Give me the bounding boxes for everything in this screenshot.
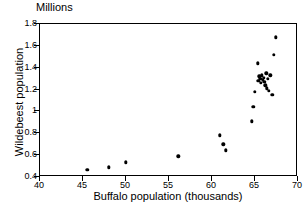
data-point	[269, 74, 272, 77]
y-axis-tick	[34, 89, 39, 90]
x-axis-tick-label: 40	[24, 180, 54, 190]
y-axis-tick	[34, 110, 39, 111]
y-axis-tick	[34, 154, 39, 155]
data-point	[124, 161, 127, 164]
data-point	[218, 134, 221, 137]
data-point	[256, 62, 259, 65]
data-point	[86, 168, 89, 171]
y-axis-title: Wildebeest population	[13, 27, 25, 177]
data-point	[264, 71, 267, 74]
data-point	[107, 165, 110, 168]
x-axis-tick-label: 65	[239, 180, 269, 190]
plot-area	[39, 23, 297, 176]
y-axis-tick	[34, 67, 39, 68]
data-point	[221, 143, 224, 146]
x-axis-tick-label: 60	[196, 180, 226, 190]
x-axis-tick-label: 70	[282, 180, 308, 190]
y-axis-tick	[34, 132, 39, 133]
data-point	[274, 35, 277, 38]
scatter-chart-figure: Millions 0.40.60.811.21.41.61.8 Buffalo …	[0, 0, 308, 208]
data-points-layer	[40, 24, 296, 175]
data-point	[250, 120, 253, 123]
data-point	[270, 93, 273, 96]
data-point	[177, 155, 180, 158]
y-axis-tick	[34, 45, 39, 46]
data-point	[224, 149, 227, 152]
data-point	[252, 105, 255, 108]
y-axis-unit-caption: Millions	[36, 1, 73, 14]
x-axis-tick-label: 50	[110, 180, 140, 190]
data-point	[253, 90, 256, 93]
x-axis-title: Buffalo population (thousands)	[39, 190, 297, 203]
x-axis-tick-label: 55	[153, 180, 183, 190]
data-point	[272, 53, 275, 56]
data-point	[266, 77, 269, 80]
x-axis-tick-label: 45	[67, 180, 97, 190]
y-axis-tick	[34, 23, 39, 24]
